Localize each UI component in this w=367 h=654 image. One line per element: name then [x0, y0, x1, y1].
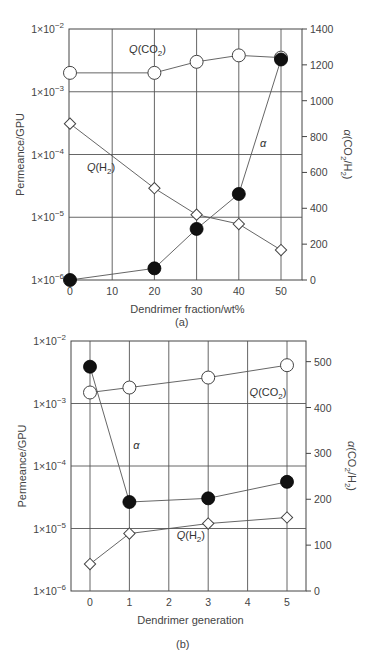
- diamond-marker: [64, 118, 75, 129]
- caption-a: (a): [175, 316, 188, 328]
- y-right-tick-label: 800: [310, 131, 328, 143]
- y-right-tick-label: 1200: [310, 59, 334, 71]
- y-axis-title: Permeance/GPU: [14, 113, 26, 196]
- y-right-tick-label: 500: [314, 356, 332, 368]
- y-right-tick-label: 200: [310, 238, 328, 250]
- x-tick-label: 30: [191, 285, 203, 297]
- filled-circle-marker: [275, 53, 288, 66]
- diamond-marker: [275, 244, 286, 255]
- y-right-axis-title: α(CO2/H2): [339, 129, 354, 179]
- y-axis-title: Permeance/GPU: [16, 424, 28, 507]
- x-tick-label: 3: [205, 596, 211, 608]
- diamond-marker: [203, 518, 214, 529]
- filled-circle-marker: [148, 262, 161, 275]
- filled-circle-marker: [202, 492, 215, 505]
- caption-b: (b): [176, 638, 189, 650]
- filled-circle-marker: [123, 496, 136, 509]
- open-circle-marker: [64, 66, 77, 79]
- y-right-tick-label: 400: [310, 202, 328, 214]
- diamond-marker: [149, 183, 160, 194]
- diamond-marker: [84, 558, 95, 569]
- x-tick-label: 2: [166, 596, 172, 608]
- series-line: [70, 124, 281, 250]
- x-tick-label: 40: [233, 285, 245, 297]
- chart-panel-a: 010203040501×10−21×10−31×10−41×10−51×10−…: [14, 21, 354, 315]
- y-right-tick-label: 100: [314, 539, 332, 551]
- x-tick-label: 4: [245, 596, 251, 608]
- x-axis-title: Dendrimer generation: [137, 614, 243, 626]
- filled-circle-marker: [232, 187, 245, 200]
- open-circle-marker: [84, 386, 97, 399]
- series-annotation: α: [133, 439, 140, 451]
- x-tick-label: 1: [126, 596, 132, 608]
- series-annotation: α: [260, 137, 267, 149]
- y-tick-label: 1×10−6: [33, 583, 66, 597]
- x-tick-label: 10: [106, 285, 118, 297]
- x-tick-label: 20: [149, 285, 161, 297]
- filled-circle-marker: [64, 274, 77, 287]
- y-tick-label: 1×10−3: [33, 396, 66, 410]
- series-line: [70, 55, 281, 72]
- diamond-marker: [191, 209, 202, 220]
- open-circle-marker: [123, 381, 136, 394]
- series-annotation: Q(H2): [177, 529, 205, 544]
- open-circle-marker: [202, 371, 215, 384]
- diamond-marker: [124, 528, 135, 539]
- x-tick-label: 50: [275, 285, 287, 297]
- y-right-tick-label: 600: [310, 166, 328, 178]
- y-right-tick-label: 0: [310, 274, 316, 286]
- y-tick-label: 1×10−3: [31, 84, 64, 98]
- chart-panel-b: 0123451×10−21×10−31×10−41×10−51×10−60100…: [16, 333, 358, 626]
- y-right-tick-label: 400: [314, 402, 332, 414]
- y-right-tick-label: 200: [314, 493, 332, 505]
- filled-circle-marker: [84, 360, 97, 373]
- series-annotation: Q(CO2): [250, 386, 287, 401]
- y-tick-label: 1×10−6: [31, 272, 64, 286]
- diamond-marker: [281, 512, 292, 523]
- y-tick-label: 1×10−2: [33, 333, 66, 347]
- series-annotation: Q(H2): [87, 161, 115, 176]
- y-right-tick-label: 0: [314, 585, 320, 597]
- x-axis-title: Dendrimer fraction/wt%: [130, 303, 245, 315]
- open-circle-marker: [190, 55, 203, 68]
- filled-circle-marker: [281, 475, 294, 488]
- y-tick-label: 1×10−5: [31, 209, 64, 223]
- y-tick-label: 1×10−4: [33, 458, 66, 472]
- y-tick-label: 1×10−5: [33, 521, 66, 535]
- x-tick-label: 5: [284, 596, 290, 608]
- y-right-tick-label: 1400: [310, 23, 334, 35]
- open-circle-marker: [281, 359, 294, 372]
- open-circle-marker: [148, 66, 161, 79]
- series-annotation: Q(CO2): [129, 43, 166, 58]
- y-right-tick-label: 300: [314, 447, 332, 459]
- y-right-axis-title: α(CO2/H2): [343, 441, 358, 491]
- filled-circle-marker: [190, 222, 203, 235]
- x-tick-label: 0: [87, 596, 93, 608]
- y-tick-label: 1×10−4: [31, 147, 64, 161]
- y-right-tick-label: 1000: [310, 95, 334, 107]
- y-tick-label: 1×10−2: [31, 21, 64, 35]
- open-circle-marker: [232, 49, 245, 62]
- diamond-marker: [233, 218, 244, 229]
